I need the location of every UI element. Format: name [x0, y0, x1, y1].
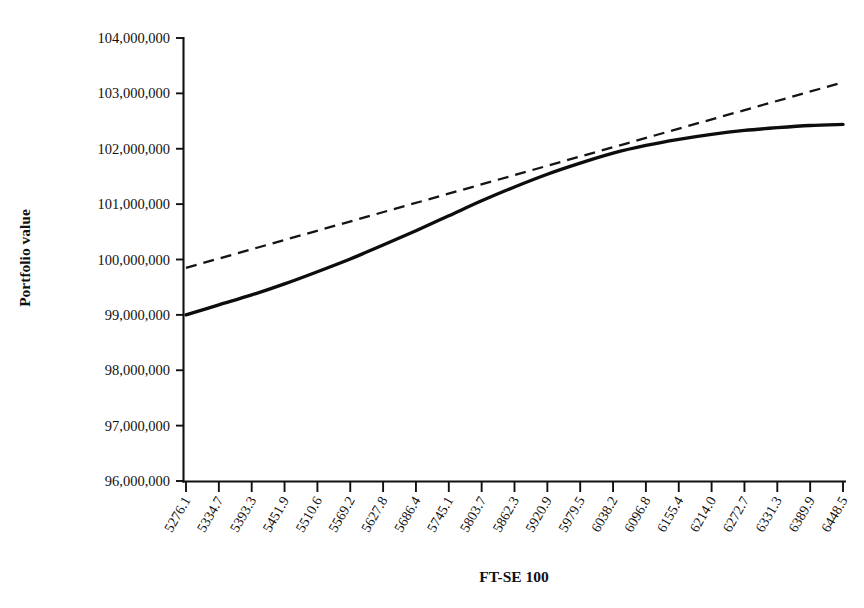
- x-tick-label: 5393.3: [227, 494, 259, 535]
- y-tick-mark-group: [176, 38, 183, 481]
- y-tick-label: 101,000,000: [98, 196, 171, 212]
- x-tick-label: 6272.7: [720, 494, 752, 535]
- x-tick-label: 5920.9: [523, 494, 555, 535]
- y-tick-label-group: 104,000,000103,000,000102,000,000101,000…: [98, 30, 171, 489]
- x-tick-label: 5334.7: [194, 494, 226, 535]
- x-tick-label: 5979.5: [556, 494, 588, 535]
- x-tick-label: 5862.3: [490, 494, 522, 535]
- y-axis-title: Portfolio value: [16, 209, 33, 307]
- y-tick-label: 97,000,000: [105, 418, 170, 434]
- x-tick-label: 6214.0: [687, 494, 719, 535]
- linear-approximation-line: [186, 82, 843, 268]
- y-tick-label: 96,000,000: [105, 473, 170, 489]
- y-tick-label: 104,000,000: [98, 30, 171, 46]
- chart-figure: Portfolio value FT-SE 100 104,000,000103…: [0, 0, 864, 608]
- x-axis-title: FT-SE 100: [479, 568, 549, 585]
- x-tick-label: 5510.6: [293, 494, 325, 535]
- y-tick-label: 103,000,000: [98, 85, 171, 101]
- x-tick-mark-group: [186, 481, 843, 492]
- line-chart: Portfolio value FT-SE 100 104,000,000103…: [0, 0, 864, 608]
- portfolio-value-curve: [186, 124, 843, 314]
- x-tick-label: 5451.9: [260, 494, 292, 535]
- x-tick-label: 5745.1: [424, 494, 456, 535]
- x-tick-label: 6448.5: [818, 494, 850, 535]
- x-tick-label: 5276.1: [161, 494, 193, 535]
- x-tick-label: 5686.4: [391, 494, 423, 535]
- y-tick-label: 99,000,000: [105, 307, 170, 323]
- x-tick-label: 5627.8: [358, 494, 390, 535]
- x-tick-label: 6331.3: [753, 494, 785, 535]
- y-tick-label: 102,000,000: [98, 141, 171, 157]
- y-tick-label: 100,000,000: [98, 252, 171, 268]
- x-tick-label: 6038.2: [588, 494, 620, 535]
- x-tick-label: 6096.8: [621, 494, 653, 535]
- x-tick-label: 6389.9: [786, 494, 818, 535]
- x-tick-label: 5569.2: [326, 494, 358, 535]
- y-tick-label: 98,000,000: [105, 362, 170, 378]
- x-tick-label-group: 5276.15334.75393.35451.95510.65569.25627…: [161, 494, 850, 535]
- x-tick-label: 5803.7: [457, 494, 489, 535]
- x-tick-label: 6155.4: [654, 494, 686, 535]
